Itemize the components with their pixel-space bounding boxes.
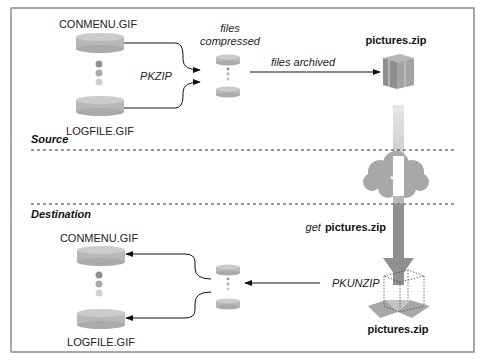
- src-file-top-label: CONMENU.GIF: [59, 18, 138, 30]
- get-file: pictures.zip: [325, 221, 386, 233]
- dest-file-bottom-label: LOGFILE.GIF: [67, 336, 135, 348]
- compressed-disk-bottom-icon: [216, 87, 240, 98]
- compress-tool-label: PKZIP: [140, 70, 172, 82]
- extract-tool-label: PKUNZIP: [332, 277, 380, 289]
- src-archive-label: pictures.zip: [365, 34, 426, 46]
- dot-icon: [96, 290, 103, 297]
- dot-icon: [227, 278, 230, 281]
- src-disk-top-icon: [76, 33, 124, 53]
- get-command: getpictures.zip: [306, 221, 387, 233]
- compressed-disk-top-icon: [216, 55, 240, 66]
- archive-arrow-label: files archived: [271, 56, 336, 68]
- transfer-beam-lower: [393, 204, 404, 260]
- dot-icon: [96, 70, 103, 77]
- dest-compressed-disk-bottom-icon: [216, 299, 240, 310]
- compressed-label-2: compressed: [200, 35, 261, 47]
- source-section-label: Source: [31, 133, 68, 145]
- dest-archive-label: pictures.zip: [367, 323, 428, 335]
- dot-icon: [227, 78, 230, 81]
- dot-icon: [227, 288, 230, 291]
- dot-icon: [96, 272, 103, 279]
- compressed-label-1: files: [220, 22, 240, 34]
- dest-compressed-disk-top-icon: [216, 265, 240, 276]
- dot-icon: [96, 79, 103, 86]
- dot-icon: [96, 281, 103, 288]
- dest-file-top-label: CONMENU.GIF: [60, 232, 139, 244]
- dest-disk-bottom-icon: [77, 309, 125, 329]
- dot-icon: [227, 73, 230, 76]
- dot-icon: [96, 61, 103, 68]
- destination-section-label: Destination: [31, 208, 91, 220]
- src-file-bottom-label: LOGFILE.GIF: [66, 125, 134, 137]
- zip-box-icon: [383, 54, 414, 89]
- diagram-canvas: CONMENU.GIF LOGFILE.GIF PKZIP files comp…: [0, 0, 480, 362]
- dest-disk-top-icon: [77, 246, 125, 266]
- dot-icon: [227, 283, 230, 286]
- src-disk-bottom-icon: [76, 96, 124, 116]
- dot-icon: [227, 68, 230, 71]
- get-prefix: get: [306, 221, 322, 233]
